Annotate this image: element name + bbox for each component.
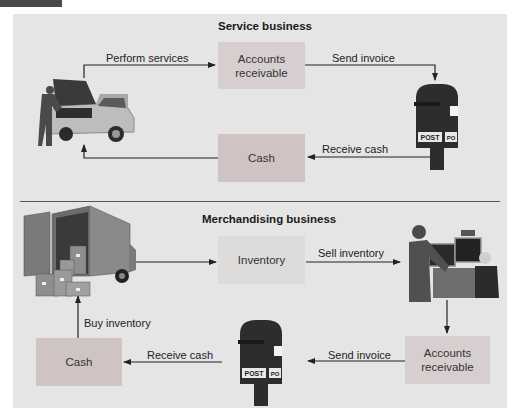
service-business-title: Service business	[218, 20, 312, 32]
inventory-label: Inventory	[238, 253, 285, 267]
mechanic-car-icon	[36, 76, 136, 148]
merch-cash-label: Cash	[66, 355, 93, 369]
service-receive-cash-label: Receive cash	[322, 143, 388, 155]
perform-services-label: Perform services	[106, 52, 189, 64]
service-accounts-receivable-label: Accounts receivable	[227, 52, 297, 80]
delivery-truck-icon	[22, 204, 138, 300]
merch-send-invoice-label: Send invoice	[328, 349, 391, 361]
merch-receive-cash-label: Receive cash	[147, 349, 213, 361]
svg-text:PO: PO	[447, 135, 456, 141]
computer-sale-icon	[405, 218, 505, 304]
svg-text:PO: PO	[271, 371, 280, 377]
section-divider	[20, 201, 500, 202]
merch-cash-box: Cash	[36, 338, 122, 386]
buy-inventory-label: Buy inventory	[84, 317, 151, 329]
service-cash-label: Cash	[248, 151, 275, 165]
service-cash-box: Cash	[218, 134, 305, 182]
svg-text:POST: POST	[420, 134, 440, 141]
service-mailbox-icon: POST PO	[412, 82, 462, 172]
sell-inventory-label: Sell inventory	[318, 247, 384, 259]
inventory-box: Inventory	[218, 236, 305, 284]
service-send-invoice-label: Send invoice	[332, 52, 395, 64]
service-accounts-receivable-box: Accounts receivable	[218, 42, 305, 89]
merchandising-business-title: Merchandising business	[202, 213, 336, 225]
merch-accounts-receivable-box: Accounts receivable	[405, 336, 490, 384]
merch-accounts-receivable-label: Accounts receivable	[413, 346, 483, 374]
merch-mailbox-icon: POST PO	[236, 318, 286, 408]
svg-text:POST: POST	[244, 370, 264, 377]
